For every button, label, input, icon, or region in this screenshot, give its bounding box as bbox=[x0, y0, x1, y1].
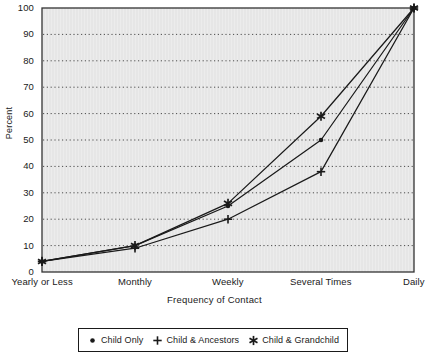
legend-label: Child & Ancestors bbox=[166, 335, 239, 345]
marker-dot bbox=[319, 138, 324, 143]
legend-marker-asterisk-icon bbox=[248, 335, 259, 346]
x-axis-label: Frequency of Contact bbox=[0, 294, 429, 305]
legend-label: Child & Grandchild bbox=[262, 335, 339, 345]
chart-figure: Percent 0102030405060708090100 Yearly or… bbox=[0, 0, 429, 360]
legend-marker-dot-icon bbox=[87, 335, 98, 346]
marker-dot bbox=[90, 338, 95, 343]
legend-label: Child Only bbox=[101, 335, 144, 345]
plot-area bbox=[0, 0, 429, 360]
legend-entry: Child & Grandchild bbox=[248, 335, 339, 346]
chart-legend: Child OnlyChild & AncestorsChild & Grand… bbox=[78, 328, 348, 352]
legend-entry: Child & Ancestors bbox=[152, 335, 239, 346]
legend-entry: Child Only bbox=[87, 335, 144, 346]
legend-marker-plus-icon bbox=[152, 335, 163, 346]
